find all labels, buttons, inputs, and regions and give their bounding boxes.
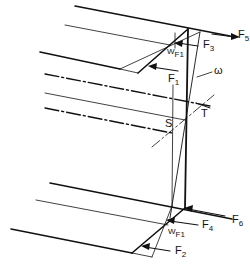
bottom-lower-thick-line <box>11 229 132 253</box>
bottom-base-segment <box>132 253 152 257</box>
label-t: T <box>201 107 208 119</box>
top-lower-thick-line <box>40 52 120 69</box>
top-bottom-segment <box>120 69 138 73</box>
axis-line-upper <box>45 74 210 106</box>
top-upper-thin-line <box>65 25 170 45</box>
f1-line <box>172 85 173 206</box>
label-f6: F6 <box>232 213 244 228</box>
label-s: S <box>165 117 172 129</box>
label-f1-top: F1 <box>168 72 180 87</box>
label-omega: ω <box>214 64 223 76</box>
omega-leader <box>197 72 212 77</box>
label-wf1-top: WF1 <box>167 47 184 59</box>
label-f5: F5 <box>238 28 250 43</box>
bottom-upper-thick-line <box>50 183 232 219</box>
arrow-f6 <box>188 209 225 216</box>
label-f4: F4 <box>202 218 214 233</box>
axis-line-lower <box>45 108 172 133</box>
bottom-thin-line <box>36 200 168 225</box>
label-f3: F3 <box>203 38 215 53</box>
label-f2: F2 <box>175 244 187 259</box>
force-diagram: F5 F3 WF1 F1 ω T S F6 F4 WF1 F2 <box>0 0 250 270</box>
label-wf1-bottom: WF1 <box>168 227 185 239</box>
